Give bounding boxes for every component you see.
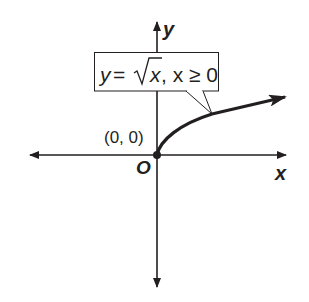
origin-point [153,151,161,159]
callout-pointer [186,91,212,114]
origin-label: O [136,157,151,178]
x-axis-label: x [274,162,287,184]
callout-y-var: y [98,63,112,86]
sqrt-curve [157,97,285,155]
callout-condition: , x ≥ 0 [161,63,218,86]
y-axis-label: y [162,18,175,40]
callout-equals: = [113,63,125,86]
graph-diagram: y = x , x ≥ 0 y x O (0, 0) [0,0,309,302]
point-label: (0, 0) [104,128,144,147]
